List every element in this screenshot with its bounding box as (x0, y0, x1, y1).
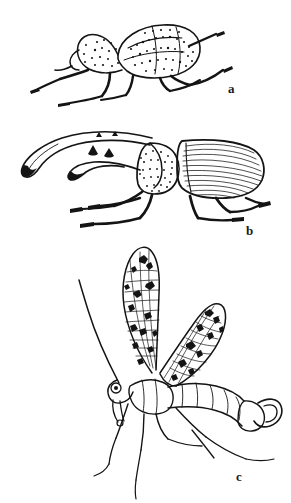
hercules-midleg2-tarsus (232, 217, 244, 222)
scorpionfly-genital-claspers (254, 399, 282, 427)
weevil-foreleg-femur (60, 70, 88, 79)
weevil-hindleg2-tarsus (216, 31, 225, 37)
scorpionfly-thorax-segment-2 (155, 379, 157, 414)
figure-weevil (0, 0, 291, 120)
weevil-midleg-femur (102, 73, 110, 96)
weevil-hindleg-tarsus (223, 66, 233, 73)
weevil-midleg3-femur (160, 78, 170, 91)
weevil-rostrum (55, 66, 72, 70)
weevil-midleg-tarsus (58, 102, 70, 107)
hercules-horn-inner-line (29, 144, 58, 169)
figure-label-b: b (246, 224, 253, 237)
scorpionfly-midleg2-femur (156, 414, 168, 439)
scorpionfly-thorax-segment-1 (142, 380, 144, 412)
hercules-thoracic-tooth-2 (104, 148, 114, 158)
hercules-foreleg-tarsus (70, 207, 83, 213)
scorpionfly-midleg-tarsus (135, 480, 136, 499)
weevil-foreleg-tibia (38, 79, 60, 89)
weevil-hindleg-femur (171, 76, 190, 85)
scorpionfly-thorax (129, 380, 173, 414)
weevil-midleg2-tibia (101, 95, 126, 100)
hercules-thoracic-horn (68, 162, 140, 180)
scorpionfly-abdomen-dorsal (168, 383, 244, 401)
scorpionfly-hindleg-tarsus (246, 459, 274, 461)
hercules-midleg2-femur (190, 196, 198, 218)
weevil-midleg2-femur (126, 76, 133, 95)
hercules-midleg2-tibia (198, 218, 232, 220)
scorpionfly-midleg-femur (141, 414, 144, 450)
figure-label-a: a (228, 82, 235, 95)
scorpionfly-eye-pupil (114, 386, 118, 390)
hercules-head (150, 143, 162, 188)
scorpionfly-midleg-tibia (136, 450, 141, 480)
scorpionfly-foreleg-tarsus (94, 464, 109, 476)
scorpionfly-abdomen-ventral (168, 407, 242, 426)
weevil-midleg3-tibia (170, 80, 200, 91)
weevil-midleg-tibia (70, 96, 102, 103)
figure-hercules-beetle (0, 110, 291, 240)
hercules-thoracic-tooth-1 (88, 145, 98, 156)
scorpionfly-clasper-inner (264, 405, 277, 422)
scorpionfly-midleg2-tibia (168, 439, 202, 446)
hercules-hindleg2-femur (246, 198, 264, 204)
figure-label-c: c (236, 470, 242, 483)
hercules-hindleg-femur (216, 198, 230, 212)
hercules-midleg-tarsus (80, 222, 94, 228)
weevil-elytral-stria (124, 51, 184, 60)
hercules-midleg-femur (140, 195, 152, 218)
figure-scorpionfly (0, 240, 291, 503)
scorpionfly-abdomen-segment-lines (182, 383, 240, 420)
hercules-midleg-tibia (94, 218, 140, 224)
weevil-elytral-stria-3 (176, 27, 180, 74)
illustration-plate: a b c (0, 0, 291, 503)
scorpionfly-hindleg-femur (176, 408, 206, 437)
scorpionfly-antenna (79, 280, 119, 383)
hercules-horn-tip (22, 165, 37, 177)
weevil-hindleg2-femur (189, 34, 216, 46)
hercules-hindleg-tibia (230, 206, 258, 212)
weevil-foreleg-tarsus (30, 88, 40, 94)
hercules-elytra-striations (183, 144, 262, 198)
scorpionfly-foreleg-tibia (109, 438, 116, 464)
